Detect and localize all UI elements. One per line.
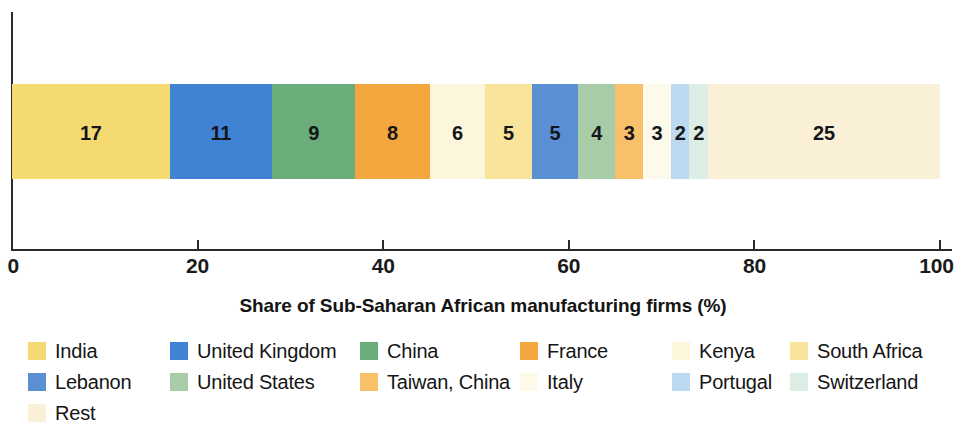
x-axis-tick-mark bbox=[11, 240, 13, 251]
legend-item-label: France bbox=[547, 341, 608, 361]
bar-segment: 5 bbox=[532, 84, 578, 179]
bar-segment: 3 bbox=[615, 84, 643, 179]
bar-segment: 17 bbox=[12, 84, 170, 179]
legend-item-label: Kenya bbox=[699, 341, 755, 361]
legend-item[interactable]: Lebanon bbox=[28, 367, 131, 397]
bar-segment-value-label: 3 bbox=[651, 123, 662, 143]
legend-color-swatch-icon bbox=[672, 373, 690, 391]
bar-segment: 11 bbox=[170, 84, 272, 179]
plot-area: 020406080100 1711986554332225 bbox=[0, 0, 966, 262]
bar-segment-value-label: 17 bbox=[80, 123, 102, 143]
bar-segment: 2 bbox=[671, 84, 690, 179]
bar-segment: 3 bbox=[643, 84, 671, 179]
legend-color-swatch-icon bbox=[672, 342, 690, 360]
legend-item-label: Switzerland bbox=[817, 372, 918, 392]
legend-item-label: United Kingdom bbox=[197, 341, 337, 361]
legend-color-swatch-icon bbox=[170, 373, 188, 391]
legend-item[interactable]: Taiwan, China bbox=[360, 367, 510, 397]
x-axis-spine bbox=[11, 249, 952, 251]
legend-item[interactable]: United Kingdom bbox=[170, 336, 337, 366]
bar-segment-value-label: 9 bbox=[308, 123, 319, 143]
x-axis-tick-mark bbox=[753, 240, 755, 251]
bar-segment: 5 bbox=[485, 84, 531, 179]
bar-segment: 4 bbox=[578, 84, 615, 179]
bar-segment-value-label: 11 bbox=[211, 123, 232, 143]
x-axis-tick-mark bbox=[939, 240, 941, 251]
legend-row: Rest bbox=[0, 398, 966, 428]
legend-item-label: India bbox=[55, 341, 97, 361]
x-axis-tick-label: 80 bbox=[743, 254, 766, 278]
x-axis-tick-label: 40 bbox=[372, 254, 395, 278]
legend-item[interactable]: Kenya bbox=[672, 336, 755, 366]
legend-item[interactable]: France bbox=[520, 336, 608, 366]
chart-legend: IndiaUnited KingdomChinaFranceKenyaSouth… bbox=[0, 336, 966, 432]
legend-color-swatch-icon bbox=[28, 373, 46, 391]
legend-item-label: Taiwan, China bbox=[387, 372, 510, 392]
bar-segment: 6 bbox=[430, 84, 486, 179]
legend-item-label: China bbox=[387, 341, 438, 361]
legend-item[interactable]: China bbox=[360, 336, 438, 366]
bar-segment-value-label: 6 bbox=[452, 123, 463, 143]
legend-item[interactable]: Portugal bbox=[672, 367, 772, 397]
bar-segment-value-label: 3 bbox=[624, 123, 635, 143]
legend-item-label: Lebanon bbox=[55, 372, 131, 392]
legend-item[interactable]: Rest bbox=[28, 398, 95, 428]
bar-segment: 25 bbox=[708, 84, 940, 179]
stacked-bar: 1711986554332225 bbox=[12, 84, 940, 179]
x-axis-title: Share of Sub-Saharan African manufacturi… bbox=[0, 295, 966, 317]
legend-color-swatch-icon bbox=[360, 342, 378, 360]
legend-color-swatch-icon bbox=[28, 404, 46, 422]
legend-row: IndiaUnited KingdomChinaFranceKenyaSouth… bbox=[0, 336, 966, 366]
bar-segment-value-label: 5 bbox=[503, 123, 514, 143]
legend-item[interactable]: Switzerland bbox=[790, 367, 918, 397]
legend-item-label: Portugal bbox=[699, 372, 772, 392]
x-axis-tick-label: 0 bbox=[7, 254, 18, 278]
legend-item-label: United States bbox=[197, 372, 314, 392]
legend-item[interactable]: Italy bbox=[520, 367, 583, 397]
legend-color-swatch-icon bbox=[520, 373, 538, 391]
legend-color-swatch-icon bbox=[520, 342, 538, 360]
legend-item[interactable]: South Africa bbox=[790, 336, 922, 366]
bar-segment-value-label: 8 bbox=[387, 123, 398, 143]
x-axis-tick-mark bbox=[568, 240, 570, 251]
x-axis-tick-label: 20 bbox=[186, 254, 209, 278]
x-axis-tick-mark bbox=[197, 240, 199, 251]
x-axis-tick-label: 60 bbox=[557, 254, 580, 278]
legend-item-label: South Africa bbox=[817, 341, 922, 361]
legend-color-swatch-icon bbox=[790, 373, 808, 391]
bar-segment: 2 bbox=[689, 84, 708, 179]
legend-color-swatch-icon bbox=[28, 342, 46, 360]
bar-segment-value-label: 2 bbox=[693, 123, 704, 143]
bar-segment-value-label: 4 bbox=[591, 123, 602, 143]
legend-color-swatch-icon bbox=[360, 373, 378, 391]
bar-segment-value-label: 5 bbox=[549, 123, 560, 143]
x-axis-tick-label: 100 bbox=[919, 254, 953, 278]
legend-item[interactable]: India bbox=[28, 336, 97, 366]
legend-color-swatch-icon bbox=[790, 342, 808, 360]
stacked-bar-chart-figure: 020406080100 1711986554332225 Share of S… bbox=[0, 0, 966, 432]
legend-item-label: Italy bbox=[547, 372, 583, 392]
legend-color-swatch-icon bbox=[170, 342, 188, 360]
bar-segment-value-label: 25 bbox=[813, 123, 835, 143]
bar-segment: 8 bbox=[355, 84, 429, 179]
legend-item-label: Rest bbox=[55, 403, 95, 423]
bar-segment: 9 bbox=[272, 84, 356, 179]
bar-segment-value-label: 2 bbox=[675, 123, 686, 143]
legend-row: LebanonUnited StatesTaiwan, ChinaItalyPo… bbox=[0, 367, 966, 397]
x-axis-tick-mark bbox=[382, 240, 384, 251]
legend-item[interactable]: United States bbox=[170, 367, 314, 397]
